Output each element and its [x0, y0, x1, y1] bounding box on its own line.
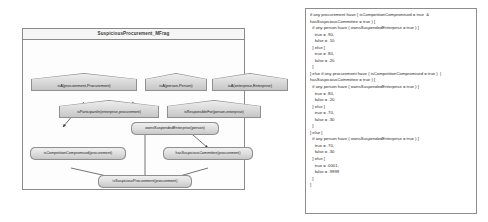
script-code: if any procurement have ( isCompetitionC… [310, 12, 472, 189]
mfrag-title: SuspiciousProcurement_MFrag [23, 30, 244, 38]
node-label: isA(procurement,Procurement) [31, 83, 137, 88]
node-label: isA(person,Person) [145, 83, 207, 88]
node-isa-enterprise[interactable]: isA(enterprise,Enterprise) [212, 73, 288, 91]
node-label: hasSuspiciousCommittee(procurement) [163, 151, 253, 155]
node-isresponsiblefor[interactable]: isResponsibleFor(person,enterprise) [167, 100, 261, 118]
node-label: isA(enterprise,Enterprise) [212, 83, 288, 88]
node-ownssuspendedenterprise[interactable]: ownsSuspendedEnterprise(person) [131, 122, 219, 135]
node-label: isCompetitionCompromised(procurement) [30, 151, 126, 155]
node-isa-person[interactable]: isA(person,Person) [145, 73, 207, 91]
node-label: isParticipantIn(enterprise,procurement) [59, 110, 159, 114]
node-iscompetitioncompromised[interactable]: isCompetitionCompromised(procurement) [30, 147, 126, 160]
node-label: isResponsibleFor(person,enterprise) [167, 110, 261, 114]
mfrag-panel: SuspiciousProcurement_MFrag isA [22, 28, 245, 190]
script-panel[interactable]: if any procurement have ( isCompetitionC… [305, 8, 477, 214]
node-label: isSuspiciousProcurement(procurement) [98, 179, 192, 183]
node-isparticipantin[interactable]: isParticipantIn(enterprise,procurement) [59, 100, 159, 118]
node-hassuspiciouscommittee[interactable]: hasSuspiciousCommittee(procurement) [163, 147, 253, 160]
node-label: ownsSuspendedEnterprise(person) [131, 126, 219, 130]
node-issuspiciousprocurement[interactable]: isSuspiciousProcurement(procurement) [98, 175, 192, 188]
node-isa-procurement[interactable]: isA(procurement,Procurement) [31, 73, 137, 91]
